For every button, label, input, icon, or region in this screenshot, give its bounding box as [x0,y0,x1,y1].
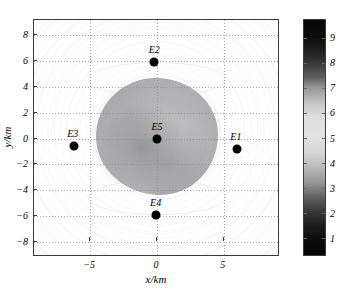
colorbar-tick-6 [322,88,325,89]
colorbar-tick-left-0 [304,238,307,239]
colorbar-label-2: 3 [330,182,335,193]
colorbar-tick-left-5 [304,113,307,114]
colorbar-label-7: 8 [330,56,335,67]
colorbar-label-3: 4 [330,157,335,168]
y-tick-label-7: −6 [16,209,28,220]
colorbar-tick-left-7 [304,63,307,64]
station-marker-e1[interactable] [233,144,242,153]
colorbar-tick-2 [322,188,325,189]
clipped-header-strip [0,0,353,9]
station-label-e3: E3 [67,128,78,139]
colorbar-label-5: 6 [330,107,335,118]
y-tick-0 [33,34,37,35]
gridline-horizontal-5 [34,164,278,165]
colorbar-tick-left-8 [304,38,307,39]
colorbar-tick-4 [322,138,325,139]
colorbar-label-6: 7 [330,82,335,93]
y-tick-7 [33,215,37,216]
gridline-horizontal-2 [34,87,278,88]
y-axis-label: y/km [1,127,13,148]
x-axis-label: x/km [146,273,167,285]
y-tick-label-8: −8 [16,235,28,246]
y-tick-label-4: 0 [23,132,28,143]
y-tick-label-2: 4 [23,80,28,91]
figure-root: E1E2E3E4E5 −50586420−2−4−6−8 x/km y/km 1… [0,0,353,295]
station-label-e4: E4 [150,197,161,208]
colorbar-tick-left-1 [304,213,307,214]
gridline-horizontal-0 [34,35,278,36]
station-marker-e4[interactable] [151,211,160,220]
x-tick-1 [156,237,157,241]
gridline-horizontal-8 [34,242,278,243]
station-label-e2: E2 [149,44,160,55]
x-tick-0 [89,237,90,241]
x-tick-label-0: −5 [83,259,95,270]
colorbar-tick-8 [322,38,325,39]
station-label-e5: E5 [151,121,162,132]
colorbar-label-1: 2 [330,208,335,219]
plot-axes: E1E2E3E4E5 [33,19,279,256]
colorbar-tick-5 [322,113,325,114]
gridline-horizontal-3 [34,113,278,114]
gridline-vertical-0 [90,20,91,255]
gridline-vertical-2 [224,20,225,255]
y-tick-label-1: 6 [23,55,28,66]
colorbar-tick-3 [322,163,325,164]
colorbar-tick-left-6 [304,88,307,89]
station-label-e1: E1 [230,131,241,142]
x-tick-label-2: 5 [220,259,225,270]
y-tick-label-3: 2 [23,106,28,117]
colorbar-tick-7 [322,63,325,64]
station-marker-e5[interactable] [153,134,162,143]
y-tick-8 [33,241,37,242]
y-tick-label-6: −4 [16,184,28,195]
y-tick-label-0: 8 [23,29,28,40]
gridline-horizontal-6 [34,190,278,191]
y-tick-4 [33,138,37,139]
station-marker-e2[interactable] [150,57,159,66]
colorbar-label-4: 5 [330,132,335,143]
y-tick-label-5: −2 [16,158,28,169]
y-tick-5 [33,163,37,164]
colorbar-tick-0 [322,238,325,239]
station-marker-e3[interactable] [70,142,79,151]
colorbar [303,19,326,256]
colorbar-tick-left-3 [304,163,307,164]
y-tick-2 [33,86,37,87]
colorbar-label-8: 9 [330,31,335,42]
colorbar-tick-1 [322,213,325,214]
y-tick-3 [33,112,37,113]
colorbar-tick-left-2 [304,188,307,189]
x-tick-2 [223,237,224,241]
y-tick-6 [33,189,37,190]
colorbar-tick-left-4 [304,138,307,139]
x-tick-label-1: 0 [154,259,159,270]
colorbar-label-0: 1 [330,233,335,244]
y-tick-1 [33,60,37,61]
